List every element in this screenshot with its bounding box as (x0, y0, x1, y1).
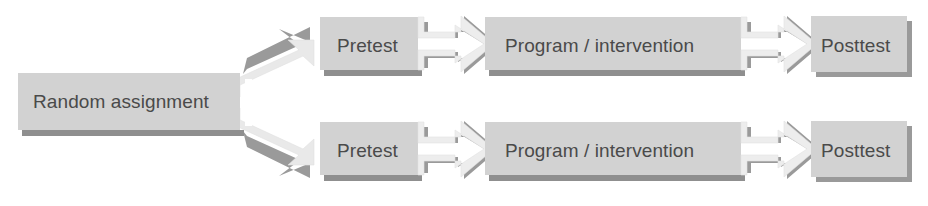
node-label-random-assignment: Random assignment (33, 92, 209, 111)
node-label-program-2: Program / intervention (505, 141, 694, 160)
arrow-program-posttest-1 (741, 16, 821, 74)
node-label-program-1: Program / intervention (505, 36, 694, 55)
node-label-posttest-1: Posttest (821, 36, 890, 55)
node-label-posttest-2: Posttest (821, 141, 890, 160)
arrow-program-posttest-2 (741, 121, 821, 179)
node-label-pretest-1: Pretest (337, 36, 398, 55)
flow-diagram: Random assignment Pretest Program / inte… (0, 0, 928, 206)
node-label-pretest-2: Pretest (337, 141, 398, 160)
